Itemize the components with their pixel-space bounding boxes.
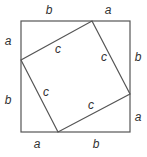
pythagorean-diagram: b a b a b a b a c c c c	[0, 0, 147, 157]
label-left-top: a	[5, 34, 12, 48]
label-inner-bottom: c	[88, 98, 94, 112]
inner-square	[21, 21, 130, 132]
label-top-left: b	[46, 3, 53, 17]
outer-square	[21, 21, 130, 132]
label-right-top: b	[135, 50, 142, 64]
label-right-bottom: a	[135, 110, 142, 124]
label-inner-right: c	[101, 50, 107, 64]
label-inner-left: c	[43, 85, 49, 99]
label-inner-top: c	[55, 42, 61, 56]
label-top-right: a	[105, 3, 112, 17]
label-left-bottom: b	[5, 93, 12, 107]
label-bottom-left: a	[34, 137, 41, 151]
label-bottom-right: b	[93, 137, 100, 151]
